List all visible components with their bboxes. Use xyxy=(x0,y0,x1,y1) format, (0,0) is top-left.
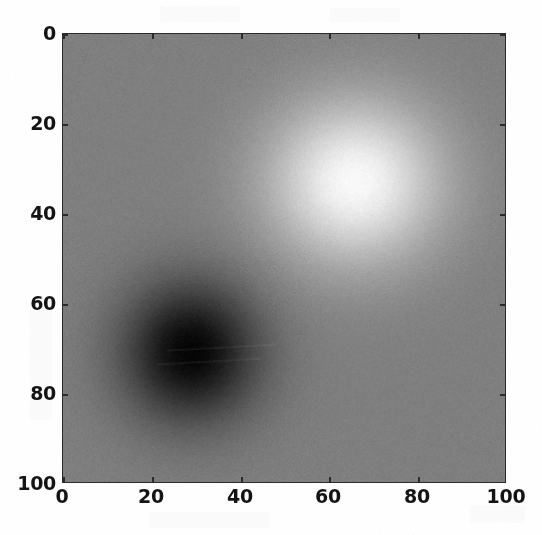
x-tick-100 xyxy=(505,477,506,482)
y-tick-40 xyxy=(63,214,68,216)
y-tick-20 xyxy=(63,124,68,126)
x-tick-label-80: 80 xyxy=(404,487,430,506)
x-tick-40 xyxy=(241,477,243,482)
x-tick-80 xyxy=(418,34,420,39)
heatmap-axes xyxy=(62,33,506,483)
y-tick-60 xyxy=(500,304,505,306)
y-tick-label-20: 20 xyxy=(30,114,56,133)
x-tick-60 xyxy=(329,34,331,39)
figure-root: 020406080100 020406080100 xyxy=(0,0,542,535)
y-tick-label-100: 100 xyxy=(17,474,56,493)
x-tick-40 xyxy=(241,34,243,39)
x-tick-80 xyxy=(418,477,420,482)
heatmap-image xyxy=(63,34,505,482)
y-tick-0 xyxy=(63,34,68,36)
x-tick-label-100: 100 xyxy=(487,487,526,506)
x-tick-label-40: 40 xyxy=(227,487,253,506)
y-tick-40 xyxy=(500,214,505,216)
x-tick-60 xyxy=(329,477,331,482)
x-tick-label-60: 60 xyxy=(315,487,341,506)
y-tick-0 xyxy=(500,34,505,36)
y-tick-100 xyxy=(63,482,68,483)
x-tick-label-0: 0 xyxy=(56,487,69,506)
y-tick-label-80: 80 xyxy=(30,384,56,403)
x-tick-20 xyxy=(152,477,154,482)
x-tick-label-20: 20 xyxy=(138,487,164,506)
y-tick-label-60: 60 xyxy=(30,294,56,313)
x-tick-100 xyxy=(505,34,506,39)
y-tick-80 xyxy=(63,394,68,396)
y-tick-80 xyxy=(500,394,505,396)
y-tick-60 xyxy=(63,304,68,306)
x-tick-20 xyxy=(152,34,154,39)
y-tick-label-40: 40 xyxy=(30,204,56,223)
y-tick-label-0: 0 xyxy=(43,24,56,43)
y-tick-20 xyxy=(500,124,505,126)
y-tick-100 xyxy=(500,482,505,483)
